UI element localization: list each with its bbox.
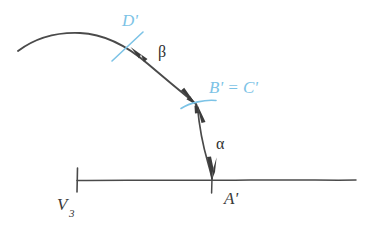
construction-diagram: D' B' = C' A' V 3 β α bbox=[0, 0, 377, 236]
v3-tick bbox=[77, 168, 78, 192]
horizontal-baseline bbox=[77, 180, 356, 181]
arrowhead-up-into-b-prime bbox=[195, 104, 206, 124]
arrowhead-toward-d-prime bbox=[131, 47, 148, 62]
label-b-equals-c: B' = C' bbox=[209, 78, 258, 97]
label-alpha: α bbox=[216, 135, 225, 152]
label-a-prime: A' bbox=[223, 189, 238, 208]
figure-container: D' B' = C' A' V 3 β α bbox=[0, 0, 377, 236]
label-d-prime: D' bbox=[121, 11, 138, 30]
upper-arc bbox=[18, 33, 196, 104]
label-v-subscript: 3 bbox=[68, 207, 75, 219]
arrowhead-into-a-prime bbox=[207, 156, 217, 180]
label-beta: β bbox=[158, 43, 166, 61]
